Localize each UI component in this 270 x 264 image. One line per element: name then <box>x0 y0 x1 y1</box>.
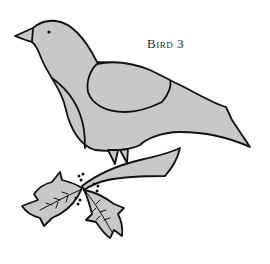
leg-left <box>108 150 118 164</box>
leg-right <box>120 149 128 163</box>
wing <box>87 62 170 112</box>
berry <box>96 190 99 193</box>
berry <box>75 197 78 200</box>
branch <box>82 148 180 190</box>
berry <box>77 203 80 206</box>
bird-illustration <box>0 0 270 264</box>
berry <box>93 183 96 186</box>
berry <box>80 179 83 182</box>
beak-line <box>32 28 33 42</box>
berry <box>79 199 82 202</box>
eye <box>47 30 50 33</box>
berry <box>97 185 100 188</box>
berry <box>78 175 81 178</box>
berry <box>82 173 85 176</box>
illustration-canvas: Bird 3 <box>0 0 270 264</box>
holly-leaf-left <box>22 172 82 226</box>
